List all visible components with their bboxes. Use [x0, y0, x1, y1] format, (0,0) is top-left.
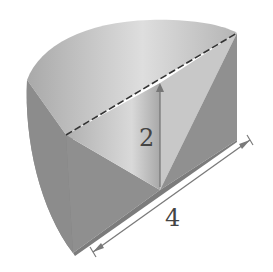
length-tick-right [247, 135, 253, 145]
half-cylinder-diagram: 2 4 [0, 0, 273, 272]
height-label: 2 [139, 124, 154, 152]
length-arrowhead-left-icon [93, 243, 104, 252]
length-arrowhead-right-icon [239, 140, 250, 149]
length-tick-left [90, 247, 96, 257]
length-label: 4 [165, 204, 180, 232]
